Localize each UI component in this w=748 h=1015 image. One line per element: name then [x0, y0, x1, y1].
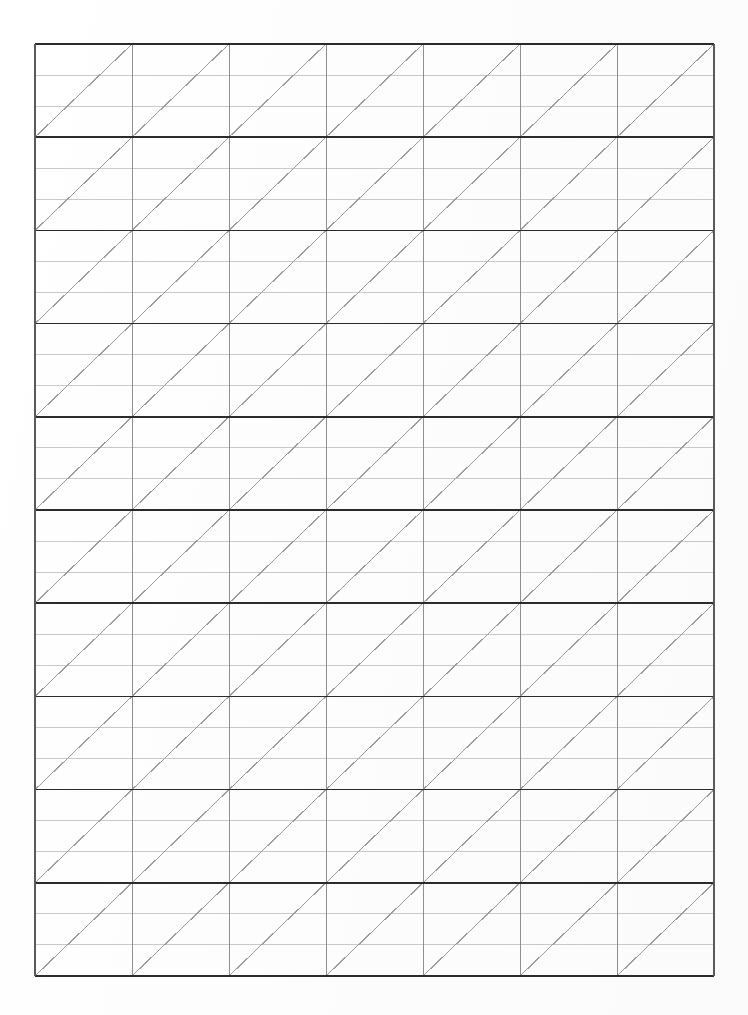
diagonal-line	[423, 510, 520, 603]
diagonal-line	[229, 417, 326, 510]
diagonal-line	[35, 230, 132, 323]
diagonal-line	[326, 44, 423, 137]
diagonal-line	[617, 696, 714, 789]
diagonal-line	[520, 883, 617, 976]
diagonal-line	[617, 230, 714, 323]
diagonal-line	[326, 696, 423, 789]
diagonal-line	[35, 137, 132, 230]
diagonal-line	[35, 603, 132, 696]
diagonal-line	[35, 510, 132, 603]
diagonal-line	[229, 883, 326, 976]
diagonal-line	[617, 324, 714, 417]
diagonal-line	[520, 137, 617, 230]
diagonal-line	[617, 137, 714, 230]
diagonal-line	[617, 417, 714, 510]
diagonal-line	[132, 603, 229, 696]
diagonal-line	[423, 44, 520, 137]
diagonal-line	[520, 230, 617, 323]
diagonal-line	[229, 324, 326, 417]
diagonal-line	[35, 44, 132, 137]
diagonal-line	[132, 883, 229, 976]
major-horizontal-lines	[35, 137, 714, 883]
diagonal-line	[326, 883, 423, 976]
diagonal-line	[326, 790, 423, 883]
diagonal-line	[520, 324, 617, 417]
diagonal-line	[326, 230, 423, 323]
diagonal-line	[617, 510, 714, 603]
diagonal-line	[617, 44, 714, 137]
diagonal-line	[326, 510, 423, 603]
diagonal-line	[132, 790, 229, 883]
diagonal-line	[35, 324, 132, 417]
diagonal-line	[229, 603, 326, 696]
diagonal-line	[520, 510, 617, 603]
diagonal-line	[326, 417, 423, 510]
diagonal-line	[35, 417, 132, 510]
diagonal-line	[326, 137, 423, 230]
diagonal-line	[326, 324, 423, 417]
diagonal-line	[229, 696, 326, 789]
diagonal-line	[229, 510, 326, 603]
diagonal-line	[617, 883, 714, 976]
diagonal-line	[229, 230, 326, 323]
diagonal-line	[132, 230, 229, 323]
diagonal-line	[423, 230, 520, 323]
diagonal-line	[520, 790, 617, 883]
diagonal-line	[423, 603, 520, 696]
diagonal-line	[132, 417, 229, 510]
diagonal-line	[35, 790, 132, 883]
diagonal-line	[423, 324, 520, 417]
diagonal-line	[423, 883, 520, 976]
diagonal-line	[229, 790, 326, 883]
diagonal-line	[132, 137, 229, 230]
diagonal-line	[132, 696, 229, 789]
page-canvas	[0, 0, 748, 1015]
diagonal-line	[423, 790, 520, 883]
diagonal-line	[617, 790, 714, 883]
diagonal-line	[326, 603, 423, 696]
diagonal-line	[35, 883, 132, 976]
diagonal-line	[423, 696, 520, 789]
diagonal-line	[132, 44, 229, 137]
diagonal-line	[132, 510, 229, 603]
diagonal-line	[520, 603, 617, 696]
grid-svg	[35, 44, 714, 976]
diagonal-line	[35, 696, 132, 789]
diagonal-line	[423, 417, 520, 510]
diagonal-line	[520, 696, 617, 789]
diagonal-line	[132, 324, 229, 417]
diagonal-line	[520, 44, 617, 137]
diagonal-line	[229, 44, 326, 137]
diagonal-line	[423, 137, 520, 230]
diagonal-line	[520, 417, 617, 510]
diagonal-line	[229, 137, 326, 230]
ruled-grid	[35, 44, 714, 976]
diagonal-line	[617, 603, 714, 696]
